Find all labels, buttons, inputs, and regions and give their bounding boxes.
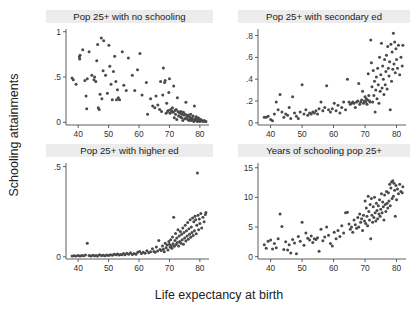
panel-title-text: Pop 25+ with higher ed bbox=[80, 145, 178, 156]
svg-text:15: 15 bbox=[244, 163, 254, 173]
svg-text:60: 60 bbox=[329, 129, 339, 139]
svg-text:80: 80 bbox=[392, 129, 402, 139]
plot-area: 0.514050607080 bbox=[46, 23, 213, 141]
plot-area: 0.54050607080 bbox=[46, 157, 213, 275]
panel-secondary-ed: Pop 25+ with secondary ed 0.2.4.6.840506… bbox=[238, 10, 410, 141]
panel-years-schooling: Years of schooling pop 25+ 0510154050607… bbox=[238, 144, 410, 275]
svg-text:70: 70 bbox=[165, 263, 175, 273]
svg-text:80: 80 bbox=[195, 263, 205, 273]
svg-text:0: 0 bbox=[56, 117, 61, 127]
svg-text:70: 70 bbox=[165, 129, 175, 139]
x-axis-title: Life expectancy at birth bbox=[24, 288, 414, 308]
svg-text:80: 80 bbox=[195, 129, 205, 139]
panel-title-text: Pop 25+ with no schooling bbox=[73, 11, 185, 22]
svg-text:50: 50 bbox=[297, 129, 307, 139]
svg-text:0: 0 bbox=[248, 252, 253, 262]
svg-text:.8: .8 bbox=[246, 31, 253, 41]
svg-text:70: 70 bbox=[360, 263, 370, 273]
svg-text:.4: .4 bbox=[246, 74, 253, 84]
panel-title-text: Years of schooling pop 25+ bbox=[266, 145, 382, 156]
scatter-matrix-figure: Schooling attainments Life expectancy at… bbox=[0, 0, 418, 313]
svg-text:10: 10 bbox=[244, 192, 254, 202]
panel-title-text: Pop 25+ with secondary ed bbox=[266, 11, 382, 22]
panel-title-band: Pop 25+ with secondary ed bbox=[238, 10, 410, 23]
panel-title-band: Pop 25+ with no schooling bbox=[46, 10, 213, 23]
y-axis-title-text: Schooling attainments bbox=[6, 74, 20, 197]
svg-text:.5: .5 bbox=[54, 162, 61, 172]
plot-area: 0510154050607080 bbox=[238, 157, 410, 275]
svg-text:5: 5 bbox=[248, 222, 253, 232]
svg-text:40: 40 bbox=[266, 129, 276, 139]
panel-title-band: Pop 25+ with higher ed bbox=[46, 144, 213, 157]
svg-text:50: 50 bbox=[297, 263, 307, 273]
panel-no-schooling: Pop 25+ with no schooling 0.514050607080 bbox=[46, 10, 213, 141]
svg-text:0: 0 bbox=[248, 118, 253, 128]
panel-0-svg: 0.514050607080 bbox=[46, 23, 213, 141]
panel-2-svg: 0.54050607080 bbox=[46, 157, 213, 275]
svg-text:.6: .6 bbox=[246, 52, 253, 62]
svg-text:0: 0 bbox=[56, 252, 61, 262]
x-axis-title-text: Life expectancy at birth bbox=[155, 288, 284, 302]
panel-1-svg: 0.2.4.6.84050607080 bbox=[238, 23, 410, 141]
svg-text:60: 60 bbox=[134, 263, 144, 273]
svg-text:.5: .5 bbox=[54, 72, 61, 82]
panel-higher-ed: Pop 25+ with higher ed 0.54050607080 bbox=[46, 144, 213, 275]
svg-text:60: 60 bbox=[329, 263, 339, 273]
svg-text:40: 40 bbox=[74, 129, 84, 139]
svg-text:60: 60 bbox=[134, 129, 144, 139]
y-axis-title: Schooling attainments bbox=[2, 0, 24, 270]
plot-area: 0.2.4.6.84050607080 bbox=[238, 23, 410, 141]
svg-text:40: 40 bbox=[74, 263, 84, 273]
svg-text:70: 70 bbox=[360, 129, 370, 139]
panel-title-band: Years of schooling pop 25+ bbox=[238, 144, 410, 157]
svg-text:50: 50 bbox=[104, 263, 114, 273]
svg-text:1: 1 bbox=[56, 27, 61, 37]
svg-text:50: 50 bbox=[104, 129, 114, 139]
svg-text:.2: .2 bbox=[246, 96, 253, 106]
svg-text:80: 80 bbox=[392, 263, 402, 273]
panel-3-svg: 0510154050607080 bbox=[238, 157, 410, 275]
svg-text:40: 40 bbox=[266, 263, 276, 273]
